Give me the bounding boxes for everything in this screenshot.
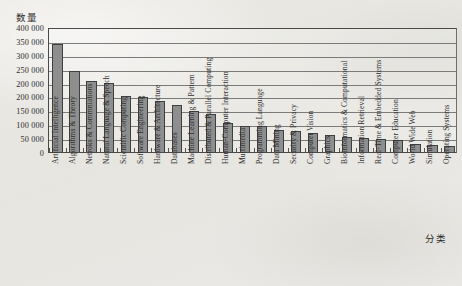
y-axis-tick-label: 150 000 — [16, 107, 44, 116]
x-axis-category-label: Machine Learning & Pattern — [187, 74, 196, 164]
gridline — [49, 43, 456, 44]
y-axis-tick-label: 0 — [40, 149, 44, 158]
x-axis-category-label: Computer Vision — [306, 111, 315, 164]
y-axis-tick-labels: 400 000350 000300 000250 000200 000200 0… — [0, 0, 44, 286]
x-axis-category-label: World Wide Web — [408, 110, 417, 164]
x-axis-category-label: Computer Education — [391, 99, 400, 164]
gridline — [49, 71, 456, 72]
x-axis-category-label: Databases — [170, 132, 179, 164]
x-axis-tick-mark — [151, 148, 152, 152]
x-axis-tick-mark — [100, 148, 101, 152]
x-axis-tick-mark — [185, 148, 186, 152]
y-axis-tick-label: 300 000 — [16, 51, 44, 60]
y-axis-tick-label: 200 000 — [16, 93, 44, 102]
x-axis-category-label: Hardware & Architecture — [153, 85, 162, 164]
x-axis-category-label: Graphics — [323, 136, 332, 164]
y-axis-tick-label: 50 000 — [21, 135, 44, 144]
x-axis-category-label: Multimedia — [238, 128, 247, 164]
y-axis-tick-label: 250 000 — [16, 65, 44, 74]
x-axis-title: 分类 — [425, 231, 446, 245]
x-axis-category-label: Human-Computer Interaction — [221, 71, 230, 164]
x-axis-category-label: Programming Language — [255, 88, 264, 164]
x-axis-category-label: Natural Language & Speech — [102, 75, 111, 164]
gridline — [49, 57, 456, 58]
bar-chart: 数量 400 000350 000300 000250 000200 00020… — [0, 0, 462, 286]
x-axis-tick-mark — [219, 148, 220, 152]
x-axis-tick-mark — [236, 148, 237, 152]
x-axis-tick-mark — [202, 148, 203, 152]
y-axis-tick-label: 400 000 — [16, 24, 44, 33]
y-axis-tick-label: 200 000 — [16, 79, 44, 88]
x-axis-category-label: Algorithms & Theory — [68, 96, 77, 164]
x-axis-tick-mark — [168, 148, 169, 152]
y-axis-tick-label: 350 000 — [16, 37, 44, 46]
x-axis-category-label: Real-Time & Embedded Systems — [374, 60, 383, 164]
x-axis-category-label: Software Engineering — [136, 96, 145, 164]
x-axis-tick-mark — [83, 148, 84, 152]
x-axis-category-label: Scientific Computing — [119, 97, 128, 164]
x-axis-tick-mark — [49, 148, 50, 152]
x-axis-category-label: Bioinformatics & Computational — [340, 61, 349, 164]
x-axis-category-label: Simulation — [425, 130, 434, 164]
x-axis-category-label: Distributed & Parallel Computing — [204, 58, 213, 164]
x-axis-category-label: Netroks & Commniations — [85, 83, 94, 164]
x-axis-tick-mark — [134, 148, 135, 152]
x-axis-category-label: Artificial Intelligence — [51, 96, 60, 164]
x-axis-category-label: Operating Systems — [442, 105, 451, 164]
x-axis-category-label: Information Retrieval — [357, 96, 366, 164]
x-axis-tick-mark — [66, 148, 67, 152]
x-axis-category-label: Data Mining — [272, 124, 281, 164]
x-axis-category-label: Security & Privacy — [289, 104, 298, 164]
x-axis-tick-mark — [117, 148, 118, 152]
y-axis-tick-label: 100 000 — [16, 121, 44, 130]
